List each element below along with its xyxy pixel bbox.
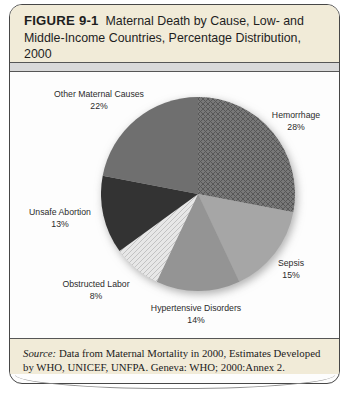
pie-label-unsafe-abortion: Unsafe Abortion13% [29,207,91,230]
page-shadow [15,374,335,389]
pie-label-text: Unsafe Abortion [29,207,91,219]
figure-box: FIGURE 9-1Maternal Death by Cause, Low- … [9,4,340,384]
pie-label-hypertensive-disorders: Hypertensive Disorders14% [151,303,241,326]
pie-label-hemorrhage: Hemorrhage28% [272,110,320,133]
source-label: Source: [23,347,56,359]
pie-label-value: 13% [29,218,91,230]
pie-label-value: 15% [278,269,304,281]
pie-label-value: 22% [54,100,144,112]
pie-label-text: Other Maternal Causes [54,89,144,101]
pie-chart [98,94,298,294]
pie-label-text: Obstructed Labor [62,279,129,291]
pie-label-value: 8% [62,290,129,302]
pie-label-obstructed-labor: Obstructed Labor8% [62,279,129,302]
figure-label: FIGURE 9-1 [24,13,99,28]
pie-label-text: Hemorrhage [272,110,320,122]
pie-label-value: 14% [151,314,241,326]
pie-label-text: Sepsis [278,258,304,270]
chart-area: Hemorrhage28%Sepsis15%Hypertensive Disor… [10,72,339,339]
source-text: Data from Maternal Mortality in 2000, Es… [23,347,320,373]
figure-source: Source: Data from Maternal Mortality in … [10,339,339,374]
pie-label-sepsis: Sepsis15% [278,258,304,281]
divider-strip [10,63,339,72]
pie-label-text: Hypertensive Disorders [151,303,241,315]
figure-header: FIGURE 9-1Maternal Death by Cause, Low- … [10,5,339,63]
pie-label-other-maternal-causes: Other Maternal Causes22% [54,89,144,112]
pie-label-value: 28% [272,121,320,133]
